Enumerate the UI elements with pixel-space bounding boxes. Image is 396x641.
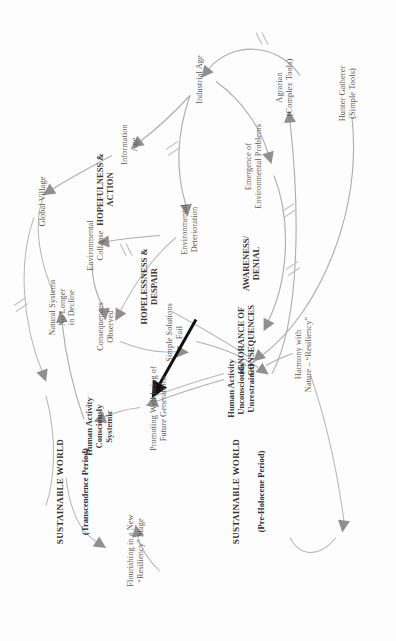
node-human-activity-systemic: Human Activity Consciously Systemic: [85, 397, 115, 456]
node-sustainable-world-pre: SUSTAINABLE WORLD: [231, 438, 242, 543]
node-hopelessness-despair: HOPELESSNESS & DESPAIR: [140, 248, 160, 324]
node-agrarian: Agrarian (Complex Tools): [275, 58, 294, 116]
node-hunter-gatherer: Hunter Gatherer (Simple Tools): [338, 65, 357, 121]
node-emergence-of-environmental-problems: Emergence of Environmental Problems: [244, 124, 263, 209]
node-transcendence-period: (Transcendence Period): [81, 448, 91, 535]
node-consequences-observed: Consequences Observed: [96, 302, 115, 351]
node-awareness-denial: AWARENESS/ DENIAL: [242, 236, 262, 291]
node-industrial-age: Industrial Age: [195, 55, 205, 104]
node-hopefulness-action: HOPEFULNESS & ACTION: [96, 153, 116, 225]
node-ignorance-of-consequences: IGNORANCE OF CONSEQUENCES: [237, 304, 257, 375]
node-sustainable-world-transcendence: SUSTAINABLE WORLD: [55, 438, 66, 543]
diagram-canvas: .lk{fill:none;stroke:#aeaeae;stroke-widt…: [0, 0, 396, 641]
node-environmental-collapse: Environmental Collapse: [86, 220, 105, 271]
diagram-rotated-layer: .lk{fill:none;stroke:#aeaeae;stroke-widt…: [0, 0, 396, 641]
node-flourishing-new-resiliency-stage: Flourishing in a New “Resiliency” Stage: [126, 514, 145, 586]
node-information-age: Information Age: [120, 124, 139, 165]
node-pre-holocene-period: (Pre-Holocene Period): [257, 450, 267, 532]
node-simple-solutions-fail: Simple Solutions Fail: [165, 303, 184, 362]
node-natural-systems-no-longer-in-decline: Natural Systems No Longer in Decline: [48, 279, 77, 335]
node-harmony-with-nature: Harmony with Nature – “Resiliency”: [294, 316, 313, 391]
node-environmental-deterioration: Environmental Deterioration: [180, 204, 199, 255]
node-global-village: Global Village: [38, 176, 48, 226]
node-promoting-wellbeing: Promoting Well-being of Future Generatio…: [149, 366, 168, 451]
